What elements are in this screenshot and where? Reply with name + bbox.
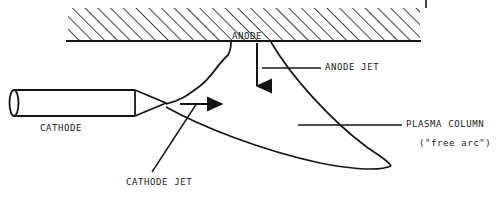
diagram-canvas [0,0,497,198]
cathode-electrode [10,90,167,116]
anode-label: ANODE [232,31,262,42]
cathode-label: CATHODE [40,123,82,134]
arc-diagram-figure: ANODE CATHODE ANODE JET CATHODE JET PLAS… [0,0,497,198]
anode-jet-label: ANODE JET [325,62,379,73]
plasma-column-right-boundary [271,42,391,166]
cathode-jet-leader-line [152,103,197,172]
plasma-column-label: PLASMA COLUMN [406,119,484,130]
cathode-jet-label: CATHODE JET [126,177,192,188]
plasma-column-lower-boundary [166,107,391,169]
free-arc-label: ("free arc") [419,138,491,149]
plasma-column-upper-boundary [166,42,231,104]
